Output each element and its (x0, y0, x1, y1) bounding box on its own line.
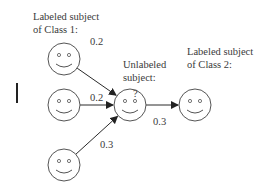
smiley-face-icon (48, 149, 80, 181)
node-circle-unlabeled (114, 89, 146, 121)
edge-weight-label: 0.3 (100, 139, 113, 150)
node-circle-class1-b (48, 89, 80, 121)
smiley-face-icon (48, 43, 80, 75)
node-circle-class2 (179, 89, 211, 121)
edge-weight-label: 0.3 (153, 116, 166, 127)
unknown-class-mark: ? (133, 88, 138, 99)
node-circle-class1-c (48, 149, 80, 181)
smiley-face-icon (48, 89, 80, 121)
node-circle-class1-a (48, 43, 80, 75)
edge-weight-label: 0.2 (90, 36, 103, 47)
smiley-face-icon (179, 89, 211, 121)
edge-weight-label: 0.2 (90, 92, 103, 103)
graph-diagram: 0.20.20.30.3 ? (0, 0, 277, 195)
smiley-face-icon (114, 89, 146, 121)
